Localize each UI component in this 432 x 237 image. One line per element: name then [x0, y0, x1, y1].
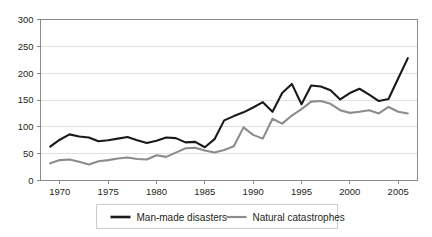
x-tick-label-1990: 1990 [243, 186, 264, 197]
legend-label-0: Man-made disasters [137, 212, 228, 223]
x-tick-label-2005: 2005 [388, 186, 409, 197]
x-axis-ticks [60, 181, 398, 185]
y-tick-label-50: 50 [23, 148, 34, 159]
y-tick-label-300: 300 [18, 14, 34, 25]
data-series-group [50, 58, 408, 164]
x-tick-label-1995: 1995 [291, 186, 312, 197]
x-tick-label-1975: 1975 [98, 186, 119, 197]
chart-plot-area: 050100150200250300 197019751980198519901… [0, 0, 432, 237]
y-axis-ticks [37, 20, 41, 181]
x-tick-label-2000: 2000 [339, 186, 360, 197]
x-tick-label-1985: 1985 [194, 186, 215, 197]
y-tick-label-200: 200 [18, 68, 34, 79]
y-tick-label-100: 100 [18, 121, 34, 132]
y-tick-label-250: 250 [18, 41, 34, 52]
series-line-0 [50, 58, 408, 147]
line-chart-figure: 050100150200250300 197019751980198519901… [0, 0, 432, 237]
x-axis-tick-labels: 19701975198019851990199520002005 [49, 186, 408, 197]
gridlines-group [41, 20, 418, 154]
series-line-1 [50, 101, 408, 164]
y-tick-label-0: 0 [28, 175, 33, 186]
y-axis-tick-labels: 050100150200250300 [18, 14, 34, 186]
x-tick-label-1970: 1970 [49, 186, 70, 197]
legend-label-1: Natural catastrophes [253, 212, 345, 223]
y-tick-label-150: 150 [18, 94, 34, 105]
chart-legend: Man-made disastersNatural catastrophes [97, 205, 345, 229]
x-tick-label-1980: 1980 [146, 186, 167, 197]
